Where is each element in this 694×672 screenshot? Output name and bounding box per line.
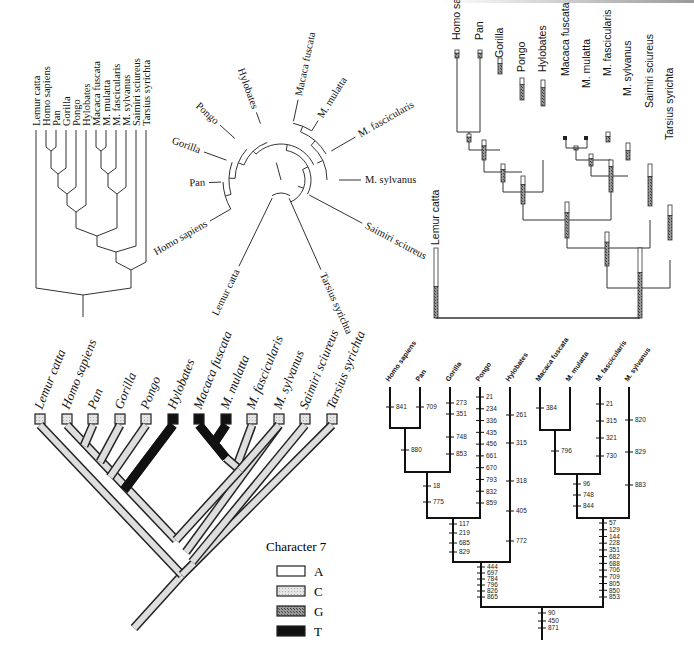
site-number: 865 <box>487 593 498 600</box>
branch-bar <box>574 148 578 150</box>
taxon-label: Pan <box>83 386 105 412</box>
branch <box>303 167 308 170</box>
taxon-label: M. mulatta <box>564 350 590 382</box>
site-change-tree: Homo sapiensPanGorillaPongoHylobatesMaca… <box>384 336 652 640</box>
site-number: 853 <box>609 593 620 600</box>
branch-bar <box>498 58 502 64</box>
branch <box>331 137 355 151</box>
taxon-label: Gorilla <box>444 360 463 382</box>
taxon-label: Lemur catta <box>429 189 441 245</box>
branch <box>225 194 231 196</box>
branch-bar <box>606 137 610 143</box>
branch <box>204 152 227 160</box>
tip-state-box <box>247 414 257 424</box>
site-number: 273 <box>456 399 467 406</box>
branch <box>253 151 256 154</box>
site-number: 775 <box>433 498 444 505</box>
branch-bar <box>648 177 652 206</box>
branch <box>311 141 315 146</box>
taxon-label: M. sylvanus <box>623 346 652 383</box>
branch-bar <box>501 164 505 169</box>
branch <box>286 145 287 151</box>
branch-bar <box>606 132 610 137</box>
branch <box>220 125 235 138</box>
branch <box>96 130 106 151</box>
branch-bar <box>482 146 486 160</box>
branch-bar <box>638 248 642 273</box>
legend-swatch-G <box>277 606 305 616</box>
branch-bar <box>455 53 459 58</box>
site-number: 844 <box>583 502 594 509</box>
branch-bar <box>498 64 502 74</box>
taxon-label: Macaca fuscata <box>559 2 571 76</box>
root-ring <box>272 193 290 195</box>
site-number: 832 <box>486 488 497 495</box>
figure-canvas: Lemur cattaHomo sapiensPanGorillaPongoHy… <box>0 0 694 672</box>
branch-bar <box>541 88 545 106</box>
branch-bar <box>565 213 569 238</box>
taxon-label: Saimiri sciureus <box>363 220 428 262</box>
site-number: 685 <box>459 539 470 546</box>
branch-bar <box>565 202 569 213</box>
branch <box>210 209 231 221</box>
branch <box>293 100 298 122</box>
tip-node <box>563 136 567 140</box>
branch-bar <box>520 78 524 85</box>
taxon-label: Pongo <box>474 361 493 383</box>
taxon-label: Tarsius syrichta <box>318 271 355 336</box>
site-number: 405 <box>516 507 527 514</box>
taxon-label: Pongo <box>136 374 163 412</box>
taxon-label: M. fascicularis <box>594 339 627 383</box>
taxon-label: Hylobates <box>504 351 530 383</box>
branch <box>312 121 318 131</box>
legend-swatch-A <box>277 566 305 576</box>
branch-fill <box>124 425 173 490</box>
site-number: 871 <box>548 624 559 631</box>
branch <box>576 148 611 160</box>
taxon-label: Homo sapiens <box>450 0 462 40</box>
branch <box>276 163 281 180</box>
branch-bar <box>482 140 486 146</box>
site-number: 709 <box>426 403 437 410</box>
tip-state-box <box>141 414 151 424</box>
branch <box>405 387 450 472</box>
legend-swatch-C <box>277 586 305 596</box>
branch <box>457 58 480 132</box>
branch <box>577 387 629 518</box>
site-number: 315 <box>606 417 617 424</box>
tip-state-box <box>115 414 125 424</box>
taxon-label: Pan <box>473 21 485 40</box>
branch <box>239 198 272 266</box>
site-number: 841 <box>396 403 407 410</box>
legend-title: Character 7 <box>266 539 327 554</box>
branch-bar <box>638 273 642 319</box>
site-number: 21 <box>486 393 494 400</box>
taxon-label: Homo sapiens <box>152 218 209 257</box>
site-number: 829 <box>459 548 470 555</box>
site-number: 748 <box>583 491 594 498</box>
site-number: 117 <box>459 520 470 527</box>
branch-bar <box>434 287 438 319</box>
site-number: 880 <box>411 446 422 453</box>
site-number: 853 <box>456 450 467 457</box>
legend-label: C <box>314 584 323 599</box>
branch-bar <box>609 166 613 192</box>
site-number: 336 <box>486 417 497 424</box>
phylogeny-figure: Lemur cattaHomo sapiensPanGorillaPongoHy… <box>0 0 694 672</box>
taxon-label: M. sylvanus <box>365 174 416 185</box>
branch-fill <box>214 425 226 443</box>
legend-label: A <box>314 564 324 579</box>
site-number: 234 <box>486 405 497 412</box>
tip-node <box>584 136 588 140</box>
site-number: 261 <box>516 411 527 418</box>
site-number: 820 <box>635 416 646 423</box>
character-state-tree: Lemur cattaHomo sapiensPanGorillaPongoHy… <box>30 327 368 639</box>
taxon-label: Saimiri sciureus <box>643 34 655 108</box>
site-number: 318 <box>516 477 527 484</box>
branch <box>291 169 305 201</box>
site-number: 730 <box>606 452 617 459</box>
taxon-label: M. fascicularis <box>356 99 416 140</box>
branch-bar <box>467 137 471 142</box>
legend-label: G <box>314 604 323 619</box>
branch-bar <box>668 205 672 216</box>
